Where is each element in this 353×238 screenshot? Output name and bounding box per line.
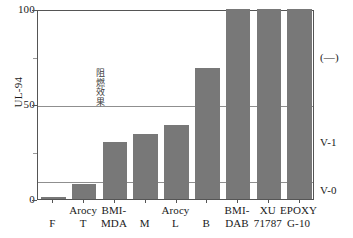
bar <box>72 184 97 199</box>
plot-area: 阻燃效果 <box>37 10 314 200</box>
x-axis-label: EPOXYG-10 <box>263 204 334 230</box>
rating-label-V-1: V-1 <box>320 137 337 148</box>
x-tick-mark <box>268 199 269 203</box>
flame-retardant-annotation: 阻燃效果 <box>95 69 105 107</box>
annotation-char: 果 <box>95 98 105 108</box>
y-axis-title: UL-94 <box>12 62 24 122</box>
bar <box>195 68 220 199</box>
bar <box>287 9 312 199</box>
x-axis-labels: FArocyTBMI-MDA MArocyL BBMI-DABXU71787EP… <box>37 202 314 238</box>
x-tick-mark <box>237 199 238 203</box>
x-tick-mark <box>83 199 84 203</box>
bar <box>164 125 189 199</box>
rating-label-dashdashdash: (—) <box>320 52 339 63</box>
x-tick-mark <box>206 199 207 203</box>
rating-label-V-0: V-0 <box>320 185 337 196</box>
chart-root: UL-94 050100 V-0V-1(—) 阻燃效果 FArocyTBMI-M… <box>0 0 353 238</box>
bar-series <box>38 11 313 199</box>
x-tick-mark <box>145 199 146 203</box>
x-tick-mark <box>299 199 300 203</box>
bar <box>257 9 282 199</box>
bar <box>103 142 128 199</box>
x-axis-label-line2: G-10 <box>263 217 334 230</box>
bar <box>226 9 251 199</box>
bar <box>133 134 158 199</box>
x-tick-mark <box>114 199 115 203</box>
y-tick-mark-0 <box>32 200 37 201</box>
x-tick-mark <box>176 199 177 203</box>
x-axis-label-line1: EPOXY <box>263 204 334 217</box>
x-tick-mark <box>52 199 53 203</box>
